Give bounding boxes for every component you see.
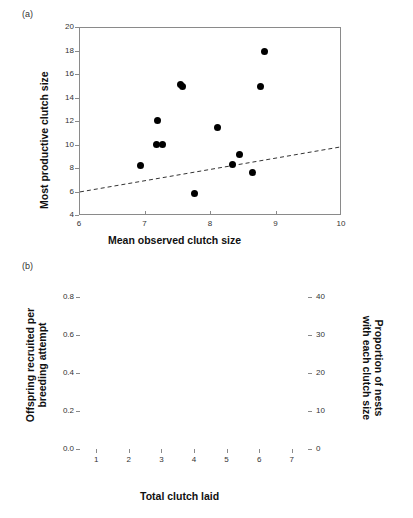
scatter-point <box>154 117 161 124</box>
panel-b-y2-axis-title-line1: Proportion of nests <box>373 293 385 443</box>
panel-b-y2tick-10: 10 <box>316 406 325 415</box>
panel-b-xtick-label: 5 <box>217 455 237 464</box>
panel-b-xtick-mark <box>96 449 97 453</box>
panel-b-y2tick-20: 20 <box>316 368 325 377</box>
panel-b-ytick-0.8: 0.8 <box>52 292 74 301</box>
panel-a-plot-frame <box>79 27 341 215</box>
panel-b-y-axis-title: Offspring recruited per breeding attempt <box>24 285 48 445</box>
scatter-point <box>229 161 236 168</box>
scatter-point <box>179 83 186 90</box>
panel-b-y-axis-title-line2: breeding attempt <box>36 285 48 445</box>
panel-a-ytick-mark <box>75 215 79 216</box>
scatter-point <box>191 190 198 197</box>
panel-b-y2tick-40: 40 <box>316 292 325 301</box>
panel-b-y2-axis-title: Proportion of nests with each clutch siz… <box>361 293 385 443</box>
panel-b-xtick-label: 1 <box>86 455 106 464</box>
panel-a-ytick-4: 4 <box>58 210 74 219</box>
panel-a-xtick-8: 8 <box>200 219 220 228</box>
panel-b-y2tick-mark <box>308 411 312 412</box>
panel-b-ytick-mark <box>76 449 80 450</box>
panel-b-xtick-label: 4 <box>184 455 204 464</box>
panel-b-ytick-0.6: 0.6 <box>52 330 74 339</box>
panel-b-x-axis-title: Total clutch laid <box>140 490 219 502</box>
panel-a-xtick-10: 10 <box>331 219 351 228</box>
panel-b-ytick-0.4: 0.4 <box>52 368 74 377</box>
scatter-point <box>257 83 264 90</box>
panel-b-xtick-mark <box>194 449 195 453</box>
panel-b-ytick-0.0: 0.0 <box>52 444 74 453</box>
panel-b-bar-chart: (b) Offspring recruited per breeding att… <box>0 255 413 518</box>
panel-a-ytick-20: 20 <box>58 22 74 31</box>
panel-b-y-axis-title-line1: Offspring recruited per <box>24 285 36 445</box>
panel-b-y2tick-0: 0 <box>316 444 320 453</box>
panel-b-xtick-mark <box>227 449 228 453</box>
panel-a-ytick-16: 16 <box>58 69 74 78</box>
scatter-point <box>137 162 144 169</box>
panel-a-ytick-8: 8 <box>58 163 74 172</box>
panel-a-x-axis-title: Mean observed clutch size <box>108 234 241 246</box>
panel-a-ytick-10: 10 <box>58 140 74 149</box>
panel-b-xtick-mark <box>259 449 260 453</box>
panel-a-scatter: (a) Most productive clutch size Mean obs… <box>0 0 413 255</box>
scatter-point <box>159 141 166 148</box>
panel-a-label: (a) <box>22 9 33 19</box>
panel-b-y2tick-mark <box>308 297 312 298</box>
panel-b-xtick-mark <box>129 449 130 453</box>
scatter-point <box>236 151 243 158</box>
panel-b-ytick-mark <box>76 297 80 298</box>
panel-a-ytick-6: 6 <box>58 187 74 196</box>
panel-b-y2tick-mark <box>308 373 312 374</box>
scatter-point <box>249 169 256 176</box>
panel-b-xtick-mark <box>161 449 162 453</box>
panel-b-ytick-0.2: 0.2 <box>52 406 74 415</box>
panel-b-y2tick-30: 30 <box>316 330 325 339</box>
panel-a-ytick-14: 14 <box>58 93 74 102</box>
scatter-point <box>261 48 268 55</box>
panel-a-xtick-6: 6 <box>69 219 89 228</box>
panel-b-label: (b) <box>22 261 33 271</box>
panel-b-xtick-label: 6 <box>249 455 269 464</box>
panel-a-xtick-7: 7 <box>135 219 155 228</box>
panel-b-ytick-mark <box>76 373 80 374</box>
panel-b-ytick-mark <box>76 411 80 412</box>
panel-b-xtick-label: 7 <box>282 455 302 464</box>
panel-a-xtick-9: 9 <box>266 219 286 228</box>
panel-a-y-axis-title: Most productive clutch size <box>38 71 50 209</box>
panel-b-y2tick-mark <box>308 335 312 336</box>
panel-b-y2-axis-title-line2: with each clutch size <box>361 293 373 443</box>
panel-a-ytick-12: 12 <box>58 116 74 125</box>
scatter-point <box>214 124 221 131</box>
panel-b-xtick-label: 3 <box>151 455 171 464</box>
panel-b-ytick-mark <box>76 335 80 336</box>
panel-b-xtick-label: 2 <box>119 455 139 464</box>
panel-b-xtick-mark <box>292 449 293 453</box>
panel-b-y2tick-mark <box>308 449 312 450</box>
panel-a-scatter-points <box>80 28 340 214</box>
panel-a-ytick-18: 18 <box>58 46 74 55</box>
